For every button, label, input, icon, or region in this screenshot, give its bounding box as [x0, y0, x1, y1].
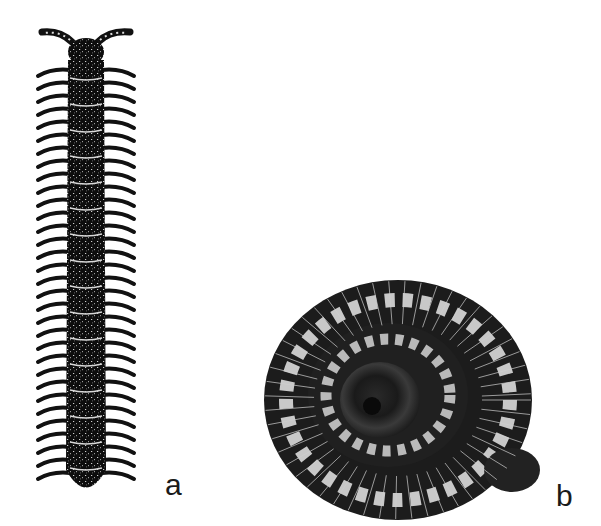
head-center	[363, 397, 381, 415]
panel-label-a: a	[165, 470, 182, 500]
panel-label-b: b	[556, 481, 573, 511]
body	[66, 60, 106, 488]
millipede-illustration	[0, 0, 200, 526]
panel-a-millipede: a	[0, 0, 200, 526]
inner-coil	[340, 362, 420, 438]
coiled-millipede-illustration	[250, 260, 601, 526]
panel-b-coiled-millipede: b	[250, 260, 601, 526]
